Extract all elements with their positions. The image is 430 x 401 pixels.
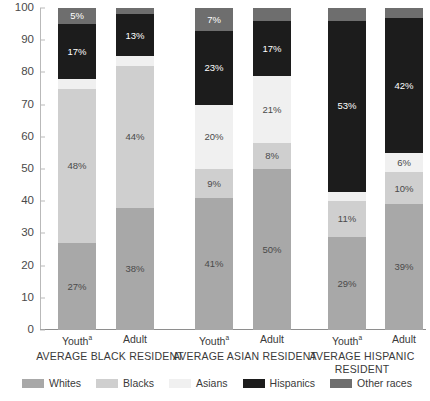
bar-segment[interactable]: 10%: [385, 172, 423, 204]
legend-label: Asians: [196, 378, 228, 389]
bar-segment[interactable]: 27%: [58, 243, 96, 330]
legend-swatch: [330, 379, 352, 388]
bar-segment-value: 17%: [262, 44, 281, 54]
bar-segment[interactable]: 44%: [116, 66, 154, 208]
stacked-bar-chart: 0102030405060708090100 27%48%17%5%38%44%…: [0, 0, 430, 401]
x-axis-label-text: Adult: [392, 333, 416, 345]
bar-segment[interactable]: 7%: [195, 8, 233, 31]
y-axis-tick-label: 10: [0, 292, 34, 304]
bar-segment-value: 42%: [394, 81, 413, 91]
y-axis-tick-mark: [40, 297, 45, 298]
bar-segment[interactable]: 39%: [385, 204, 423, 330]
bar-segment-value: 27%: [67, 282, 86, 292]
y-axis-tick-mark: [40, 201, 45, 202]
bar-segment-value: 48%: [67, 161, 86, 171]
bar-segment-value: 13%: [125, 31, 144, 41]
legend-label: Blacks: [123, 378, 154, 389]
x-axis-label-text: Youth: [199, 335, 225, 347]
bar-segment-value: 7%: [207, 15, 221, 25]
bar-segment[interactable]: 17%: [253, 21, 291, 76]
bar-segment[interactable]: [385, 8, 423, 18]
y-axis-tick-mark: [40, 8, 45, 9]
bar-segment-value: 53%: [337, 101, 356, 111]
bar-segment[interactable]: 20%: [195, 105, 233, 169]
stacked-bar[interactable]: 27%48%17%5%: [58, 8, 96, 330]
bar-segment[interactable]: [253, 8, 291, 21]
y-axis-tick-mark: [40, 233, 45, 234]
bar-segment-value: 11%: [338, 214, 356, 224]
stacked-bar[interactable]: 39%10%6%42%: [385, 8, 423, 330]
y-axis-tick-mark: [40, 169, 45, 170]
x-axis-label-text: Youth: [332, 335, 358, 347]
legend-item[interactable]: Asians: [169, 378, 228, 389]
bar-segment[interactable]: 5%: [58, 8, 96, 24]
bar-segment[interactable]: 11%: [328, 201, 366, 236]
y-axis-tick-label: 100: [0, 2, 34, 14]
y-axis-tick-mark: [40, 136, 45, 137]
bar-segment[interactable]: 42%: [385, 18, 423, 153]
bar-segment-value: 6%: [397, 158, 411, 168]
bar-segment[interactable]: 6%: [385, 153, 423, 172]
stacked-bar[interactable]: 41%9%20%23%7%: [195, 8, 233, 330]
bar-segment[interactable]: [328, 192, 366, 202]
y-axis-tick-label: 90: [0, 34, 34, 46]
bar-segment-value: 50%: [262, 245, 281, 255]
x-axis-label: Adult: [100, 334, 170, 346]
chart-legend: WhitesBlacksAsiansHispanicsOther races: [22, 378, 420, 389]
legend-item[interactable]: Whites: [22, 378, 81, 389]
bar-segment-value: 23%: [204, 63, 223, 73]
footnote-marker: a: [88, 334, 92, 341]
bar-segment[interactable]: [58, 79, 96, 89]
bar-segment[interactable]: 53%: [328, 21, 366, 192]
bar-segment-value: 20%: [204, 132, 223, 142]
y-axis-tick-mark: [40, 72, 45, 73]
bar-segment[interactable]: 50%: [253, 169, 291, 330]
legend-item[interactable]: Other races: [330, 378, 412, 389]
x-axis-label-text: Adult: [260, 333, 284, 345]
bar-segment[interactable]: 29%: [328, 237, 366, 330]
bar-segment[interactable]: 8%: [253, 143, 291, 169]
legend-swatch: [22, 379, 44, 388]
bar-segment[interactable]: 17%: [58, 24, 96, 79]
x-axis-label-text: Adult: [123, 333, 147, 345]
y-axis-tick-label: 70: [0, 99, 34, 111]
bar-segment[interactable]: 13%: [116, 14, 154, 56]
bar-segment[interactable]: 23%: [195, 31, 233, 105]
legend-label: Whites: [49, 378, 81, 389]
y-axis-tick-mark: [40, 40, 45, 41]
y-axis-tick-mark: [40, 104, 45, 105]
bar-segment-value: 41%: [204, 259, 223, 269]
x-axis-label-text: Youth: [62, 335, 88, 347]
x-axis-label: Adult: [369, 334, 430, 346]
y-axis-tick-label: 80: [0, 67, 34, 79]
legend-swatch: [169, 379, 191, 388]
x-axis-line: [40, 329, 426, 330]
legend-swatch: [243, 379, 265, 388]
bar-segment-value: 9%: [207, 179, 221, 189]
bar-segment[interactable]: 38%: [116, 208, 154, 330]
y-axis-tick-label: 30: [0, 228, 34, 240]
bar-segment[interactable]: 9%: [195, 169, 233, 198]
stacked-bar[interactable]: 29%11%53%: [328, 8, 366, 330]
y-axis-tick-label: 50: [0, 163, 34, 175]
y-axis-tick-mark: [40, 330, 45, 331]
stacked-bar[interactable]: 50%8%21%17%: [253, 8, 291, 330]
stacked-bar[interactable]: 38%44%13%: [116, 8, 154, 330]
legend-label: Hispanics: [270, 378, 316, 389]
bar-segment[interactable]: 41%: [195, 198, 233, 330]
legend-item[interactable]: Hispanics: [243, 378, 316, 389]
plot-area: 0102030405060708090100 27%48%17%5%38%44%…: [40, 8, 426, 330]
group-label: AVERAGE HISPANIC RESIDENT: [287, 350, 430, 376]
bar-segment-value: 21%: [262, 105, 281, 115]
bar-segment[interactable]: [328, 8, 366, 21]
y-axis-tick-label: 0: [0, 324, 34, 336]
y-axis-tick-label: 40: [0, 195, 34, 207]
legend-item[interactable]: Blacks: [96, 378, 154, 389]
bar-segment-value: 38%: [125, 264, 144, 274]
bar-segment-value: 39%: [394, 262, 413, 272]
bar-segment-value: 17%: [67, 47, 86, 57]
y-axis-tick-label: 60: [0, 131, 34, 143]
bar-segment[interactable]: [116, 56, 154, 66]
bar-segment[interactable]: 48%: [58, 89, 96, 244]
bar-segment[interactable]: 21%: [253, 76, 291, 144]
